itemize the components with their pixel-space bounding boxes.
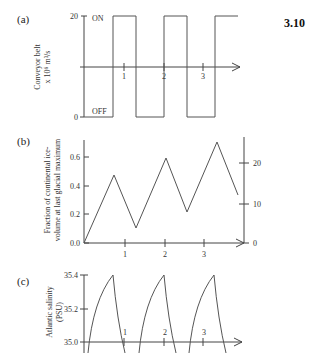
svg-text:0.0: 0.0 bbox=[70, 239, 80, 248]
svg-text:20: 20 bbox=[253, 159, 261, 168]
svg-text:x 10⁶ m³/s: x 10⁶ m³/s bbox=[43, 51, 52, 84]
svg-text:3: 3 bbox=[202, 328, 206, 337]
svg-text:1: 1 bbox=[122, 72, 126, 81]
panel-b-ylabel: Fraction of continental ice- volume at l… bbox=[43, 138, 62, 241]
panel-a-ytick-20: 20 bbox=[70, 12, 78, 21]
svg-text:35.4: 35.4 bbox=[64, 271, 78, 280]
panel-a-label: (a) bbox=[17, 13, 30, 26]
svg-text:1: 1 bbox=[123, 328, 127, 337]
figure-number: 3.10 bbox=[284, 16, 305, 30]
svg-text:3: 3 bbox=[201, 72, 205, 81]
panel-a-ytick-0: 0 bbox=[74, 113, 78, 122]
svg-text:2: 2 bbox=[163, 250, 167, 259]
figure-canvas: 3.10 (a) Conveyor belt x 10⁶ m³/s 20 0 O… bbox=[0, 0, 320, 353]
ice-volume-line bbox=[84, 142, 238, 243]
panel-c: (c) Atlantic salinity (PSU) 35.4 35.2 35… bbox=[17, 271, 242, 353]
svg-text:3: 3 bbox=[202, 250, 206, 259]
svg-text:(PSU): (PSU) bbox=[55, 302, 64, 322]
panel-b: (b) Fraction of continental ice- volume … bbox=[17, 135, 261, 259]
svg-text:Fraction of continental ice-: Fraction of continental ice- bbox=[43, 146, 52, 233]
off-label: OFF bbox=[92, 107, 107, 116]
panel-c-ylabel: Atlantic salinity (PSU) bbox=[45, 286, 64, 337]
svg-text:35.0: 35.0 bbox=[64, 338, 78, 347]
svg-text:2: 2 bbox=[163, 328, 167, 337]
svg-text:Atlantic salinity: Atlantic salinity bbox=[45, 286, 54, 337]
svg-text:1: 1 bbox=[123, 250, 127, 259]
svg-text:0: 0 bbox=[253, 239, 257, 248]
svg-text:0.4: 0.4 bbox=[70, 182, 80, 191]
svg-text:0.6: 0.6 bbox=[70, 153, 80, 162]
panel-a: (a) Conveyor belt x 10⁶ m³/s 20 0 ON OFF… bbox=[17, 12, 240, 122]
svg-text:Conveyor belt: Conveyor belt bbox=[33, 43, 42, 89]
svg-text:35.2: 35.2 bbox=[64, 305, 78, 314]
panel-b-label: (b) bbox=[17, 135, 30, 148]
salinity-curves bbox=[88, 275, 226, 353]
panel-c-label: (c) bbox=[17, 275, 30, 288]
svg-text:10: 10 bbox=[253, 200, 261, 209]
svg-text:volume at last glacial maximum: volume at last glacial maximum bbox=[53, 138, 62, 241]
svg-text:0.2: 0.2 bbox=[70, 210, 80, 219]
on-label: ON bbox=[92, 14, 104, 23]
panel-a-ylabel: Conveyor belt x 10⁶ m³/s bbox=[33, 43, 52, 89]
